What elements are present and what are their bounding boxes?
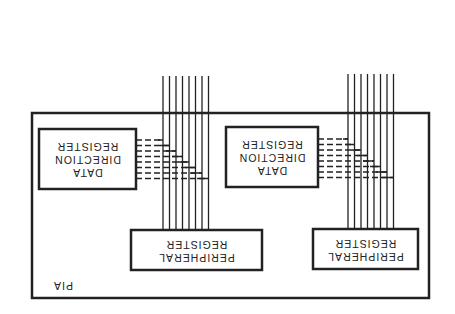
pr-b-line1: PERIPHERAL: [327, 251, 404, 263]
ddr-a-line3: REGISTER: [57, 141, 119, 153]
pr-b-line2: REGISTER: [335, 238, 397, 250]
ddr-b-line2: DIRECTION: [239, 152, 306, 164]
bus-lines-a: [163, 76, 209, 231]
pr-a-line2: REGISTER: [166, 239, 228, 251]
pr-a-line1: PERIPHERAL: [158, 252, 235, 264]
pia-label: PIA: [53, 280, 73, 292]
pia-diagram: PIA: [0, 0, 455, 314]
ddr-b-line3: REGISTER: [241, 139, 303, 151]
bus-lines-b: [348, 74, 394, 230]
ddr-a-line2: DIRECTION: [54, 154, 121, 166]
ddr-b-line1: DATA: [257, 165, 287, 177]
ddr-a-line1: DATA: [72, 167, 102, 179]
